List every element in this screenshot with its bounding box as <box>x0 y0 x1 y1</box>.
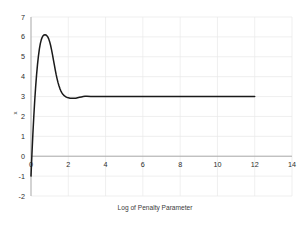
y-tick-label: -2 <box>19 192 25 201</box>
y-tick-label: 4 <box>21 72 25 81</box>
x-axis-title: Log of Penalty Parameter <box>118 204 194 212</box>
chart-figure: -2-101234567 02468101214 Log of Penalty … <box>0 0 303 225</box>
x-tick-label: 10 <box>213 160 221 169</box>
y-tick-label: 0 <box>21 152 25 161</box>
y-tick-label: 7 <box>21 13 25 22</box>
x-tick-label: 4 <box>104 160 108 169</box>
y-axis-title: x <box>12 112 18 115</box>
x-tick-label: 2 <box>66 160 70 169</box>
y-tick-label: 3 <box>21 92 25 101</box>
chart-background <box>0 0 303 225</box>
y-tick-label: 5 <box>21 52 25 61</box>
y-tick-label: 6 <box>21 32 25 41</box>
line-chart: -2-101234567 02468101214 Log of Penalty … <box>0 0 303 225</box>
y-tick-label: 2 <box>21 112 25 121</box>
y-tick-label: -1 <box>19 172 25 181</box>
x-tick-label: 14 <box>288 160 296 169</box>
y-tick-label: 1 <box>21 132 25 141</box>
x-tick-label: 8 <box>178 160 182 169</box>
x-tick-label: 12 <box>251 160 259 169</box>
x-tick-label: 6 <box>141 160 145 169</box>
